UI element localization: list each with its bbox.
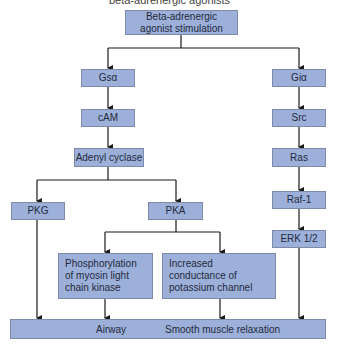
gs-alpha-box: Gsα [81, 69, 135, 87]
ras-box: Ras [272, 148, 326, 167]
beta-agonist-stimulation-box: Beta-adrenergic agonist stimulation [125, 10, 238, 35]
potassium-conductance-box: Increased conductance of potassium chann… [162, 253, 276, 299]
adenyl-cyclase-box: Adenyl cyclase [74, 148, 144, 167]
smooth-muscle-relaxation-label: Smooth muscle relaxation [165, 324, 280, 335]
camp-box: cAM [81, 109, 135, 127]
airway-label: Airway [96, 324, 126, 335]
pkg-box: PKG [11, 202, 65, 220]
raf1-box: Raf-1 [272, 191, 326, 209]
gi-alpha-box: Giα [272, 69, 326, 87]
outcome-bar: Airway Smooth muscle relaxation [10, 319, 326, 339]
pka-box: PKA [148, 202, 203, 220]
src-box: Src [272, 109, 326, 127]
phosphorylation-mlck-box: Phosphorylation of myosin light chain ki… [58, 253, 153, 299]
erk-box: ERK 1/2 [272, 230, 326, 248]
